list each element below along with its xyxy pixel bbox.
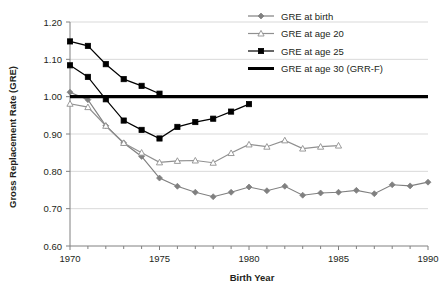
y-tick-label: 0.70 [44, 203, 63, 214]
data-point-square-filled [157, 91, 162, 96]
x-tick-label: 1990 [417, 253, 438, 264]
series-gre-at-age-25 [67, 63, 251, 141]
x-axis-title: Birth Year [230, 272, 275, 283]
data-point-square-filled [121, 77, 126, 82]
data-point-square-filled [85, 74, 90, 79]
legend-label: GRE at age 20 [281, 28, 344, 39]
x-tick-label: 1985 [328, 253, 349, 264]
data-point-diamond-filled [210, 194, 216, 200]
data-point-diamond-filled [353, 187, 359, 193]
y-tick-label: 1.20 [44, 17, 63, 28]
series-gre-at-age-25-upper [67, 39, 162, 96]
data-point-square-filled [121, 118, 126, 123]
data-point-triangle-open [282, 137, 288, 143]
data-point-diamond-filled [246, 184, 252, 190]
series-gre-at-age-20 [67, 101, 342, 166]
x-tick-label: 1975 [149, 253, 170, 264]
y-tick-label: 0.90 [44, 129, 63, 140]
y-tick-label: 1.10 [44, 54, 63, 65]
chart-legend: GRE at birthGRE at age 20GRE at age 25GR… [248, 11, 383, 75]
legend-label: GRE at age 30 (GRR-F) [281, 63, 383, 74]
data-point-square-filled [85, 43, 90, 48]
data-point-diamond-filled [371, 191, 377, 197]
data-point-diamond-filled [282, 183, 288, 189]
data-point-diamond-filled [407, 183, 413, 189]
data-point-square-filled [67, 39, 72, 44]
legend-item[interactable]: GRE at birth [248, 11, 333, 22]
data-point-square-filled [157, 136, 162, 141]
data-point-diamond-filled [258, 13, 264, 19]
y-tick-label: 0.60 [44, 241, 63, 252]
series-line [70, 41, 160, 93]
data-point-diamond-filled [300, 192, 306, 198]
data-point-square-filled [175, 124, 180, 129]
x-tick-labels: 19701975198019851990 [59, 253, 438, 264]
gre-line-chart: 0.600.700.800.901.001.101.20 19701975198… [0, 0, 442, 287]
legend-item[interactable]: GRE at age 25 [248, 46, 344, 57]
legend-label: GRE at birth [281, 11, 333, 22]
x-tick-label: 1980 [238, 253, 259, 264]
data-point-diamond-filled [389, 182, 395, 188]
legend-item[interactable]: GRE at age 30 (GRR-F) [248, 63, 383, 74]
data-point-triangle-open [139, 150, 145, 156]
data-point-square-filled [258, 48, 263, 53]
data-point-square-filled [193, 119, 198, 124]
y-tick-labels: 0.600.700.800.901.001.101.20 [44, 17, 63, 252]
data-point-diamond-filled [174, 183, 180, 189]
data-point-diamond-filled [192, 189, 198, 195]
data-point-square-filled [211, 116, 216, 121]
gridlines [70, 22, 428, 209]
y-tick-label: 1.00 [44, 91, 63, 102]
data-point-square-filled [229, 109, 234, 114]
data-point-square-filled [103, 62, 108, 67]
data-point-triangle-open [228, 150, 234, 156]
data-point-diamond-filled [67, 89, 73, 95]
legend-label: GRE at age 25 [281, 46, 344, 57]
legend-item[interactable]: GRE at age 20 [248, 28, 344, 39]
data-point-diamond-filled [318, 190, 324, 196]
data-point-diamond-filled [228, 189, 234, 195]
data-point-diamond-filled [425, 179, 431, 185]
data-point-square-filled [139, 127, 144, 132]
data-point-diamond-filled [264, 188, 270, 194]
axes [66, 22, 428, 250]
data-point-square-filled [246, 102, 251, 107]
y-axis-title: Gross Replacement Rate (GRE) [7, 66, 18, 208]
x-tick-label: 1970 [59, 253, 80, 264]
series-line [70, 104, 339, 163]
data-point-triangle-open [67, 101, 73, 107]
chart-container: 0.600.700.800.901.001.101.20 19701975198… [0, 0, 442, 287]
data-point-square-filled [139, 83, 144, 88]
data-point-square-filled [67, 63, 72, 68]
series-line [70, 65, 249, 138]
data-point-diamond-filled [336, 189, 342, 195]
y-tick-label: 0.80 [44, 166, 63, 177]
